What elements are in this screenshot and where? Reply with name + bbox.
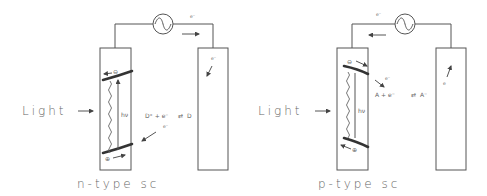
hole-drift-arrow-icon <box>341 145 351 149</box>
hole-drift-arrow-icon <box>113 155 125 158</box>
panel-p-type: Light e⁻ e ⊖ ⊕ hν e⁻ A + e⁻ ⇄ A⁻ p-type … <box>258 12 466 191</box>
light-label: Light <box>22 104 67 118</box>
hole-carrier: ⊕ <box>105 155 110 162</box>
interface-electron-arrow-icon <box>375 80 384 87</box>
electron-carrier: ⊖ <box>347 58 352 65</box>
light-label: Light <box>258 104 303 118</box>
electron-drift-arrow-icon <box>356 61 367 66</box>
interface-electron-arrow-icon <box>142 132 156 141</box>
reaction-left: A + e⁻ <box>375 91 395 98</box>
counter-electron-label: e⁻ <box>211 56 217 61</box>
caption-n-type: n-type sc <box>77 177 159 191</box>
reaction-arrows: ⇄ <box>411 91 416 98</box>
counter-electron-arrow-icon <box>447 66 451 77</box>
interface-electron-label: e⁻ <box>385 76 391 81</box>
photon-label: hν <box>121 111 129 118</box>
circuit-electron-label: e⁻ <box>190 14 196 19</box>
panel-n-type: Light e⁻ e⁻ ⊖ ⊕ hν D⁺ + e⁻ ⇄ D <box>22 14 228 191</box>
external-circuit-wire <box>352 24 451 48</box>
counter-electrode <box>198 48 228 170</box>
ac-source-icon <box>395 14 415 34</box>
caption-p-type: p-type sc <box>318 177 400 191</box>
ac-source-icon <box>153 14 173 34</box>
reaction-arrows: ⇄ <box>178 112 183 119</box>
counter-electron-label: e <box>443 81 446 86</box>
reaction-left: D⁺ + e⁻ <box>145 112 169 119</box>
reaction-right: A⁻ <box>420 91 427 98</box>
photon-label: hν <box>358 107 366 114</box>
reaction-right: D <box>187 112 192 119</box>
diagram: Light e⁻ e⁻ ⊖ ⊕ hν D⁺ + e⁻ ⇄ D <box>0 0 487 196</box>
photon-wave-icon <box>109 81 112 153</box>
circuit-electron-label: e⁻ <box>376 12 382 17</box>
interface-electron-label: e⁻ <box>163 124 169 129</box>
counter-electron-arrow-icon <box>207 66 212 76</box>
electron-drift-arrow-icon <box>104 73 112 74</box>
conduction-band-edge <box>344 66 368 74</box>
photon-wave-icon <box>347 72 350 138</box>
hole-carrier: ⊕ <box>352 146 357 153</box>
electron-carrier: ⊖ <box>113 68 118 75</box>
